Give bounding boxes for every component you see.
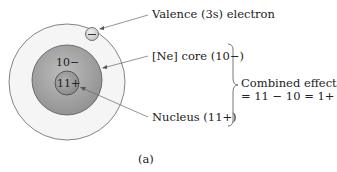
core-label: [Ne] core (10−) — [152, 50, 244, 63]
nucleus-label: Nucleus (11+) — [152, 111, 237, 124]
caption: (a) — [138, 153, 154, 166]
valence-leader — [100, 15, 148, 29]
combined-effect-equation: = 11 − 10 = 1+ — [241, 90, 334, 103]
valence-electron-label: Valence (3s) electron — [152, 8, 275, 21]
nucleus-charge-label: 11+ — [57, 77, 80, 90]
core-charge-label: 10− — [56, 56, 79, 69]
